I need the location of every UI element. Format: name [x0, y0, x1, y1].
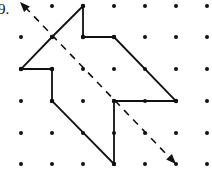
grid-dot [205, 67, 209, 71]
shape-vertex-dot [50, 99, 54, 103]
grid-dot [174, 131, 178, 135]
shape-vertex-dot [112, 35, 116, 39]
grid-dot [205, 131, 209, 135]
dot-grid-figure [0, 0, 212, 173]
grid-dot [19, 162, 23, 166]
grid-dot [143, 35, 147, 39]
grid-dot [174, 4, 178, 8]
grid-dot [205, 4, 209, 8]
grid-dot [174, 35, 178, 39]
grid-dot [143, 4, 147, 8]
grid-dot [50, 162, 54, 166]
grid-dot [50, 4, 54, 8]
grid-dot [19, 131, 23, 135]
shape-vertex-dot [19, 67, 23, 71]
shape-vertex-dot [112, 162, 116, 166]
dashed-symmetry-line [25, 7, 171, 159]
shape-vertex-dot [81, 35, 85, 39]
grid-dot [112, 4, 116, 8]
grid-dot [112, 67, 116, 71]
grid-dot [205, 99, 209, 103]
grid-dot [143, 162, 147, 166]
grid-dot [81, 99, 85, 103]
grid-dot [205, 35, 209, 39]
arrowhead-bottom-right-icon [166, 154, 176, 164]
grid-dot [205, 162, 209, 166]
shape-vertex-dot [174, 99, 178, 103]
grid-dot [81, 162, 85, 166]
shape-vertex-dot [50, 67, 54, 71]
grid-dot [19, 35, 23, 39]
shape-vertex-dot [81, 4, 85, 8]
grid-dot [174, 67, 178, 71]
grid-dot [50, 131, 54, 135]
grid-dot [19, 99, 23, 103]
